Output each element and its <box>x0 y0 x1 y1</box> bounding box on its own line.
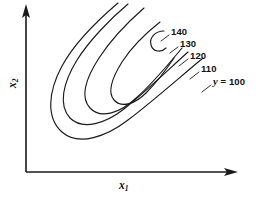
x-axis-label: x1 <box>119 180 129 192</box>
axes-group <box>22 4 238 176</box>
x-axis-label-text: x <box>119 179 125 191</box>
contour-curve-140 <box>151 31 166 51</box>
contour-label-120: 120 <box>190 51 206 61</box>
y-axis-label: x2 <box>7 79 19 89</box>
contour-plot-figure: 140 130 120 110 y = 100 x2 x1 <box>0 0 271 199</box>
leader-line-140 <box>161 35 169 41</box>
contour-label-110: 110 <box>201 64 217 74</box>
leader-line-110 <box>190 72 199 79</box>
y-axis-label-text: x <box>6 82 18 88</box>
contour-label-100: y = 100 <box>213 77 245 88</box>
contour-curve-120 <box>85 8 182 114</box>
y-axis-label-subscript: 2 <box>11 79 20 83</box>
contour-label-140: 140 <box>171 27 187 37</box>
leader-line-100 <box>202 85 211 92</box>
leader-line-130 <box>170 47 178 53</box>
x-axis-label-subscript: 1 <box>125 184 129 193</box>
contour-label-100-value: = 100 <box>218 76 245 87</box>
contour-plot-canvas <box>0 0 271 199</box>
leader-line-120 <box>179 59 188 66</box>
contour-label-130: 130 <box>180 39 196 49</box>
contour-curves-group <box>51 3 203 139</box>
